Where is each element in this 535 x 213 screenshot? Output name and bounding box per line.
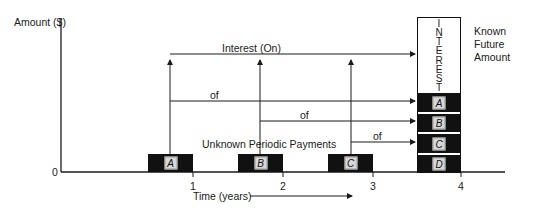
x-tick-2: 2 [280,180,286,192]
fv-tag-a: A [433,96,446,109]
known-future-amount-label: Known Future Amount [474,25,510,64]
origin-label: 0 [52,166,58,178]
fv-segment-c: C [417,134,461,153]
fv-segment-d: D [417,155,461,173]
of-label-c: of [373,130,382,142]
of-label-b: of [300,109,309,121]
x-tick-3: 3 [370,180,376,192]
fv-tag-d: D [433,158,446,171]
fv-tag-c: C [433,137,446,150]
future-value-stack: I N T E R E S T A B C D [417,17,461,172]
label-line: Known [474,25,510,38]
payments-label: Unknown Periodic Payments [202,138,336,150]
interest-letter: T [436,83,442,92]
label-line: Future [474,38,510,51]
x-axis-label: Time (years) [193,190,252,202]
payment-tag-a: A [164,157,177,170]
payment-block-a: A [148,154,193,172]
fv-segment-a: A [417,93,461,112]
x-tick-4: 4 [458,180,464,192]
interest-section: I N T E R E S T [418,18,460,93]
interest-label: Interest (On) [222,42,281,54]
fv-segment-b: B [417,114,461,132]
payment-block-c: C [328,154,373,172]
y-axis-label: Amount ($) [14,16,66,28]
of-label-a: of [210,89,219,101]
payment-tag-c: C [344,157,357,170]
payment-block-b: B [238,154,283,172]
label-line: Amount [474,51,510,64]
fv-tag-b: B [433,117,446,130]
payment-tag-b: B [254,157,267,170]
